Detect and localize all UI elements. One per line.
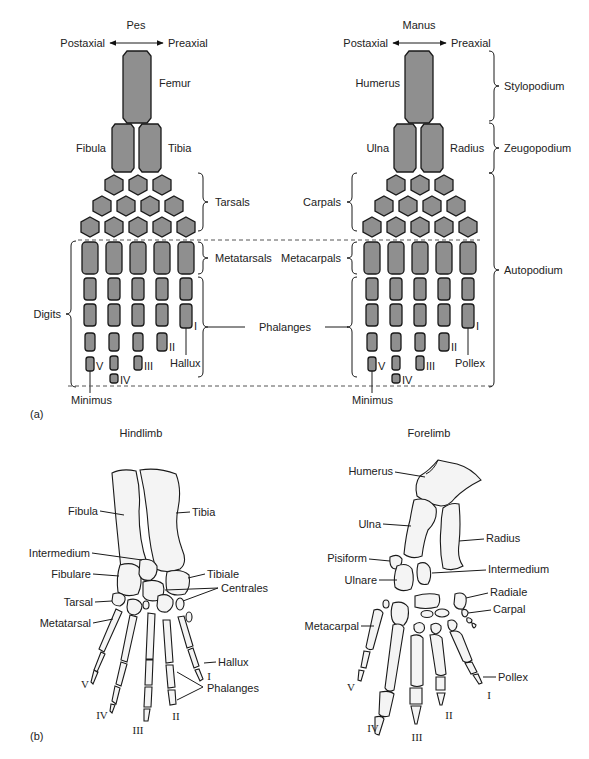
manus-schematic: Manus Postaxial Preaxial Humerus Ulna Ra… <box>281 19 571 406</box>
pes-digit-v: V <box>96 360 104 372</box>
phalanges-pointer-2 <box>177 687 203 700</box>
forelimb-radius-label: Radius <box>486 532 521 544</box>
hindlimb-tibia <box>140 469 185 571</box>
fibulare-pointer <box>93 574 119 576</box>
hindlimb-intermedium-label: Intermedium <box>29 547 90 559</box>
tibia-label: Tibia <box>168 142 192 154</box>
hindlimb-digit-iii: III <box>133 724 144 736</box>
tarsal-pointer <box>95 601 112 602</box>
pes-digit-iv: IV <box>120 374 131 386</box>
forelimb-radius <box>440 504 463 570</box>
pes-postaxial-label: Postaxial <box>60 37 105 49</box>
pes-minimus-label: Minimus <box>71 394 112 406</box>
forelimb-ulna-pointer <box>383 524 411 526</box>
centrales-label: Centrales <box>221 582 269 594</box>
forelimb-drawing: Forelimb Humerus Ulna Radius <box>305 427 550 743</box>
ulnare-bone <box>394 565 413 591</box>
metatarsal-bones <box>82 242 194 274</box>
manus-digit-iii: III <box>426 360 435 372</box>
fibulare-label: Fibulare <box>51 568 91 580</box>
forelimb-ulna <box>404 499 436 558</box>
centrale-bone-3 <box>176 598 184 610</box>
metatarsals-label: Metatarsals <box>215 252 272 264</box>
manus-minimus-label: Minimus <box>352 394 393 406</box>
pes-preaxial-label: Preaxial <box>168 37 208 49</box>
pollex-label: Pollex <box>455 357 485 369</box>
tarsal-bone-3 <box>143 601 149 609</box>
pes-schematic: Pes Postaxial Preaxial Femur Fibula Tibi… <box>33 19 272 406</box>
ulna-bone <box>394 124 416 172</box>
carpal-bone-2 <box>435 609 449 617</box>
fibulare-bone <box>117 564 141 596</box>
pes-digit-i: I <box>194 320 197 332</box>
forelimb-digit-iii: III <box>412 731 423 743</box>
tibiale-label: Tibiale <box>207 568 239 580</box>
tibiale-pointer <box>188 574 205 578</box>
manus-phalanges-brace <box>347 277 357 377</box>
tarsal-bone-1 <box>112 593 125 606</box>
femur-label: Femur <box>159 77 191 89</box>
forelimb-humerus-label: Humerus <box>348 465 393 477</box>
tarsal-hexagons <box>81 175 195 237</box>
femur-bone <box>123 51 151 123</box>
manus-postaxial-label: Postaxial <box>343 37 388 49</box>
tarsal-label: Tarsal <box>64 596 93 608</box>
tibiale-bone <box>166 571 190 595</box>
stylopodium-label: Stylopodium <box>504 80 565 92</box>
forelimb-digit-v: V <box>347 681 355 693</box>
limb-diagram: Pes Postaxial Preaxial Femur Fibula Tibi… <box>0 0 589 759</box>
hindlimb-tibia-pointer <box>176 512 190 513</box>
metacarpal-label: Metacarpal <box>305 620 359 632</box>
ulnare-label: Ulnare <box>345 574 377 586</box>
hindlimb-fibula-label: Fibula <box>68 505 99 517</box>
hindlimb-tibia-label: Tibia <box>192 506 216 518</box>
centrales-pointer-2 <box>183 588 218 601</box>
phalanges-label: Phalanges <box>259 321 311 333</box>
fibula-label: Fibula <box>76 142 107 154</box>
tarsal-bone-2 <box>127 599 142 615</box>
digits-label: Digits <box>33 308 61 320</box>
manus-digit-i: I <box>476 320 479 332</box>
metacarpals-brace <box>347 242 357 274</box>
forelimb-digit-ii: II <box>445 709 453 721</box>
tibia-bone <box>139 124 161 172</box>
humerus-label: Humerus <box>355 77 400 89</box>
tarsal-bone-4 <box>186 612 192 622</box>
autopodium-label: Autopodium <box>504 264 563 276</box>
forelimb-radius-pointer <box>459 539 484 541</box>
pes-digit-iii: III <box>144 360 153 372</box>
carpal-bone-large <box>415 594 440 609</box>
digits-brace <box>66 241 76 387</box>
radiale-pointer <box>466 593 488 598</box>
carpal-bone-1 <box>421 611 433 618</box>
manus-digit-iv: IV <box>402 374 413 386</box>
forelimb-intermedium-bone <box>417 563 431 585</box>
hindlimb-digit-ii: II <box>172 710 180 722</box>
pes-digit-ii: II <box>169 341 175 353</box>
forelimb-humerus <box>416 460 481 506</box>
humerus-bone <box>405 51 433 123</box>
forelimb-digit-i: I <box>487 689 491 701</box>
carpals-label: Carpals <box>303 196 341 208</box>
forelimb-intermedium-label: Intermedium <box>488 563 549 575</box>
forelimb-digit-iv: IV <box>367 722 379 734</box>
hindlimb-hallux-label: Hallux <box>218 656 249 668</box>
forelimb-carpal-pointer <box>468 610 491 613</box>
ulna-label: Ulna <box>366 142 390 154</box>
intermedium-bone <box>139 559 157 580</box>
carpals-brace <box>347 173 357 231</box>
manus-title: Manus <box>402 19 436 31</box>
manus-preaxial-label: Preaxial <box>451 37 491 49</box>
carpal-bone-7 <box>383 600 389 608</box>
radius-label: Radius <box>450 142 485 154</box>
stylopodium-brace <box>489 51 499 121</box>
pisiform-label: Pisiform <box>327 552 367 564</box>
metacarpal-bones <box>364 242 476 274</box>
metatarsals-brace <box>198 242 208 274</box>
radiale-label: Radiale <box>490 586 527 598</box>
panel-b-label: (b) <box>30 730 43 742</box>
carpal-hexagons <box>363 175 477 237</box>
forelimb-intermedium-pointer <box>432 570 486 573</box>
forelimb-humerus-pointer <box>395 472 425 477</box>
forelimb-ulna-label: Ulna <box>358 518 382 530</box>
